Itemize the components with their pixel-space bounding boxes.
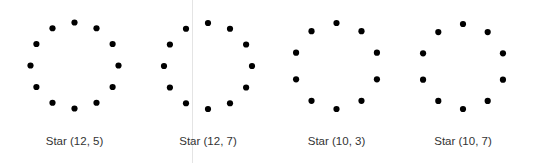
vertex-dot — [485, 29, 491, 35]
vertex-dot — [500, 77, 506, 83]
vertex-dot — [420, 50, 426, 56]
vertex-dot — [243, 84, 249, 90]
vertex-dot — [183, 100, 189, 106]
vertex-dot — [33, 41, 39, 47]
vertex-dot — [110, 84, 116, 90]
vertex-dot — [333, 106, 339, 112]
vertex-dot — [71, 19, 77, 25]
vertex-dot — [33, 84, 39, 90]
star-10-7-vertices — [420, 21, 506, 112]
vertex-dot — [293, 76, 299, 82]
star-label-12-7: Star (12, 7) — [158, 133, 258, 149]
star-label-12-5: Star (12, 5) — [25, 133, 125, 149]
vertex-dot — [227, 26, 233, 32]
vertex-dot — [93, 25, 99, 31]
star-label-10-7: Star (10, 7) — [413, 133, 513, 149]
vertex-dot — [49, 25, 55, 31]
vertex-dot — [500, 50, 506, 56]
vertex-dot — [293, 50, 299, 56]
vertex-dot — [374, 76, 380, 82]
star-12-7-vertices — [161, 20, 255, 112]
vertex-dot — [358, 28, 364, 34]
vertex-dot — [27, 62, 33, 68]
vertex-dot — [93, 100, 99, 106]
vertex-dot — [435, 29, 441, 35]
vertex-dot — [110, 41, 116, 47]
star-label-10-3: Star (10, 3) — [287, 133, 387, 149]
vertex-dot — [308, 98, 314, 104]
vertex-dot — [243, 41, 249, 47]
vertex-dot — [227, 100, 233, 106]
vertex-dot — [183, 26, 189, 32]
vertex-dot — [358, 98, 364, 104]
vertex-dot — [374, 50, 380, 56]
vertex-dot — [420, 77, 426, 83]
vertex-dot — [167, 41, 173, 47]
vertex-dot — [460, 106, 466, 112]
vertex-dot — [161, 63, 167, 69]
vertex-dot — [49, 100, 55, 106]
vertex-dot — [205, 106, 211, 112]
vertex-dot — [308, 28, 314, 34]
vertex-dot — [167, 84, 173, 90]
vertex-dot — [205, 20, 211, 26]
vertex-dot — [71, 105, 77, 111]
vertex-dot — [435, 98, 441, 104]
vertex-dot — [249, 63, 255, 69]
vertex-dot — [485, 98, 491, 104]
star-10-3-vertices — [293, 20, 380, 112]
vertex-dot — [115, 62, 121, 68]
vertex-dot — [460, 21, 466, 27]
vertex-dot — [333, 20, 339, 26]
star-12-5-vertices — [27, 19, 121, 111]
